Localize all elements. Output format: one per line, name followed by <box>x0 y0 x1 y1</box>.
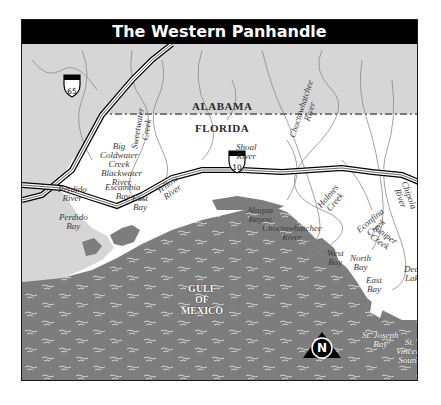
label-line: Bay <box>132 203 148 212</box>
label-line: River <box>58 194 87 203</box>
gulf-of-mexico-label: GULF OF MEXICO <box>172 283 232 316</box>
label-st-joseph-bay: St. Joseph Bay <box>362 331 399 349</box>
state-label-florida: FLORIDA <box>195 122 249 134</box>
state-label-alabama: ALABAMA <box>192 100 252 112</box>
label-shoal-river: Shoal River <box>236 143 257 161</box>
label-line: Bay <box>362 340 399 349</box>
label-perdido-river: Perdido River <box>58 185 87 203</box>
label-alaqua-bayou: Alaqua Bayou <box>247 206 273 224</box>
label-line: Bay <box>327 258 344 267</box>
label-west-bay: West Bay <box>327 249 344 267</box>
label-line: Lake <box>404 274 418 283</box>
label-east-bay-east: East Bay <box>366 276 382 294</box>
gulf-label-line1: GULF <box>172 283 232 294</box>
label-st-vincent-sound: St. Vincent Sound <box>396 338 418 365</box>
map-title: The Western Panhandle <box>22 20 417 44</box>
label-east-bay-west: East Bay <box>132 194 148 212</box>
label-line: River <box>262 233 322 242</box>
i65-number: 65 <box>64 87 80 96</box>
label-line: River <box>236 152 257 161</box>
i10-number: 10 <box>229 163 245 172</box>
label-line: Bay <box>59 222 88 231</box>
label-line: Sound <box>396 356 418 365</box>
label-perdido-bay: Perdido Bay <box>59 213 88 231</box>
north-arrow-label: N <box>315 342 329 354</box>
label-dead-lake: Dead Lake <box>404 265 418 283</box>
label-line: Bay <box>366 285 382 294</box>
label-north-bay: North Bay <box>350 254 371 272</box>
label-choctawhatchee-river-south: Choctawhatchee River <box>262 224 322 242</box>
label-line: Bay <box>350 263 371 272</box>
gulf-label-line3: MEXICO <box>172 305 232 316</box>
gulf-label-line2: OF <box>172 294 232 305</box>
map-frame: The Western Panhandle <box>21 19 418 381</box>
